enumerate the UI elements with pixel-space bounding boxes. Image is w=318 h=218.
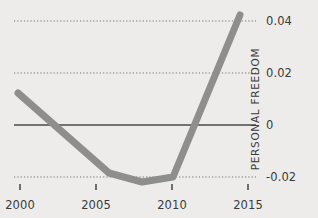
ytick-label--0.02: -0.02 (266, 170, 296, 184)
xtick-label-2005: 2005 (81, 198, 111, 212)
line-chart-svg (0, 0, 262, 190)
y-axis-title: PERSONAL FREEDOM (250, 48, 262, 171)
xtick-label-2015: 2015 (233, 198, 263, 212)
data-series-personal-freedom (18, 15, 240, 182)
ytick-label-0.04: 0.04 (266, 14, 292, 28)
ytick-label-0: 0 (266, 118, 273, 132)
xtick-label-2010: 2010 (157, 198, 187, 212)
plot-area (0, 0, 262, 190)
chart-figure: 0.04 0.02 0 -0.02 2000 2005 2010 2015 PE… (0, 0, 318, 218)
xtick-label-2000: 2000 (5, 198, 35, 212)
ytick-label-0.02: 0.02 (266, 66, 292, 80)
